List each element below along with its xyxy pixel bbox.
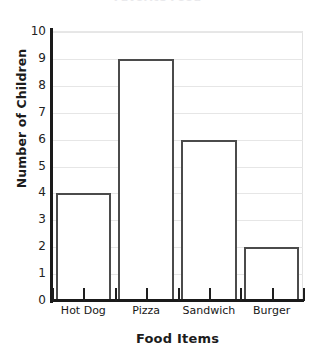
x-tick-label: Burger [232, 304, 312, 317]
y-tick-label: 1 [6, 266, 46, 280]
y-tick-label: 0 [6, 293, 46, 307]
y-tick-label: 3 [6, 212, 46, 226]
x-tick-mark [52, 288, 54, 301]
y-tick-label: 10 [6, 24, 46, 38]
gridline [52, 140, 303, 141]
chart-title: Favorite Food [0, 0, 315, 1]
y-tick-label: 5 [6, 159, 46, 173]
gridline [52, 113, 303, 114]
x-tick-mark [303, 288, 305, 301]
y-tick-label: 6 [6, 132, 46, 146]
y-axis-ticks: 109876543210 [4, 0, 46, 356]
bar-chart: Favorite Food Number of Children 1098765… [0, 0, 315, 356]
x-tick-mark [209, 288, 211, 301]
y-axis-line [50, 28, 53, 303]
plot-area [52, 31, 303, 300]
y-tick-label: 8 [6, 78, 46, 92]
bar-hot-dog [56, 193, 112, 301]
gridline [52, 59, 303, 60]
x-tick-mark [178, 288, 180, 301]
gridline [52, 32, 303, 33]
x-tick-mark [272, 288, 274, 301]
gridline [52, 167, 303, 168]
x-tick-mark [240, 288, 242, 301]
y-tick-label: 7 [6, 105, 46, 119]
x-tick-mark [146, 288, 148, 301]
bar-sandwich [181, 140, 237, 301]
x-tick-mark [83, 288, 85, 301]
y-tick-label: 2 [6, 239, 46, 253]
y-tick-label: 4 [6, 185, 46, 199]
bar-pizza [118, 59, 174, 301]
x-tick-mark [115, 288, 117, 301]
gridline [52, 86, 303, 87]
y-tick-label: 9 [6, 51, 46, 65]
x-axis-title: Food Items [50, 331, 305, 346]
